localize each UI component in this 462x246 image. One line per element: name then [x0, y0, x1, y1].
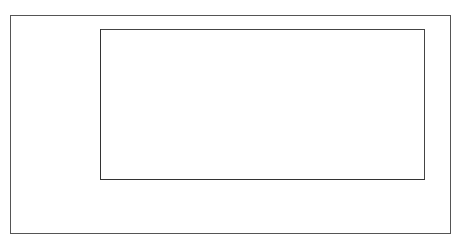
y-axis [100, 29, 101, 180]
plot-area [100, 29, 425, 179]
x-axis [100, 179, 425, 180]
